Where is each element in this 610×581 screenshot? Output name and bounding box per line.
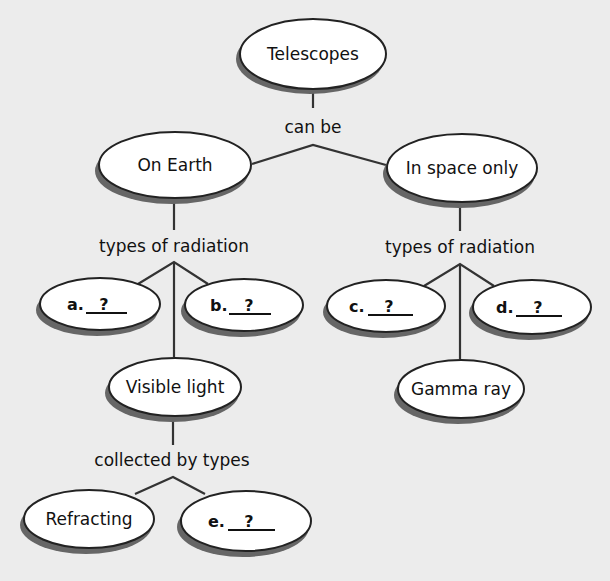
node-a-prefix: a. <box>67 295 84 314</box>
edge-canbe-branches <box>252 145 386 165</box>
link-types-left: types of radiation <box>99 236 249 256</box>
node-visible-light-label: Visible light <box>126 377 225 397</box>
node-b-blank-mark: ? <box>244 296 253 315</box>
link-types-right: types of radiation <box>385 237 535 257</box>
node-on-earth: On Earth <box>95 132 251 204</box>
node-c-prefix: c. <box>349 297 365 316</box>
node-on-earth-label: On Earth <box>137 155 212 175</box>
node-visible-light: Visible light <box>105 358 241 422</box>
node-a-blank: a. ? <box>36 278 160 336</box>
node-c-blank: c. ? <box>323 280 445 338</box>
node-refracting-label: Refracting <box>45 509 132 529</box>
link-can-be: can be <box>284 117 341 137</box>
node-e-prefix: e. <box>208 512 225 531</box>
concept-map: Telescopes can be On Earth In space only… <box>0 0 610 581</box>
node-d-blank-mark: ? <box>533 298 542 317</box>
link-collected-by: collected by types <box>94 450 250 470</box>
node-d-prefix: d. <box>496 298 514 317</box>
node-b-blank: b. ? <box>181 279 303 337</box>
node-in-space-label: In space only <box>406 158 518 178</box>
node-b-prefix: b. <box>210 296 228 315</box>
node-telescopes: Telescopes <box>236 19 386 94</box>
node-e-blank: e. ? <box>177 491 311 557</box>
node-c-blank-mark: ? <box>384 297 393 316</box>
node-a-blank-mark: ? <box>99 295 108 314</box>
node-gamma-ray: Gamma ray <box>394 360 524 424</box>
node-refracting: Refracting <box>20 490 154 554</box>
node-d-blank: d. ? <box>469 280 591 340</box>
node-in-space: In space only <box>383 134 537 208</box>
node-e-blank-mark: ? <box>244 512 253 531</box>
node-gamma-ray-label: Gamma ray <box>411 379 511 399</box>
node-telescopes-label: Telescopes <box>266 44 359 64</box>
edge-collected-branches <box>135 477 205 494</box>
